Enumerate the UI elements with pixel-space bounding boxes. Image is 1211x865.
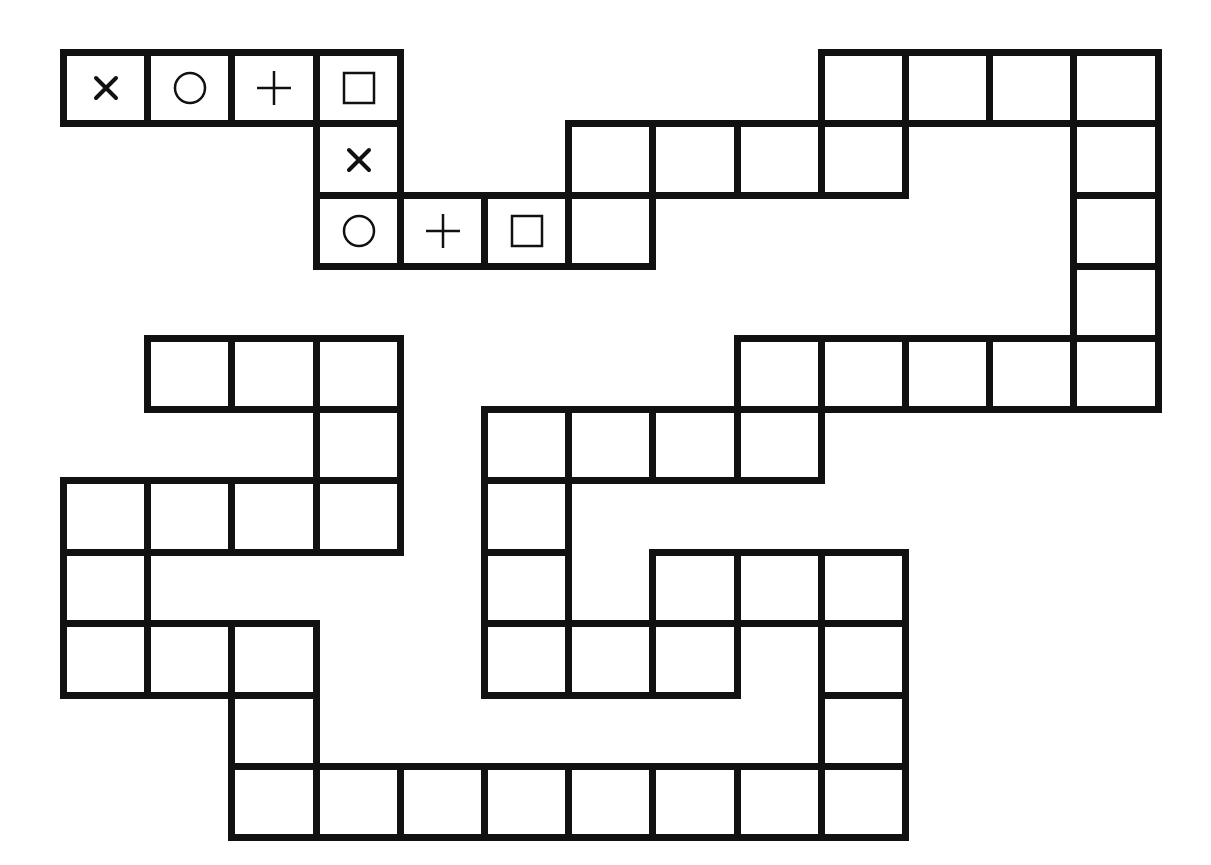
board-cell[interactable] <box>734 406 825 484</box>
board-cell[interactable] <box>649 763 741 841</box>
board-cell[interactable] <box>734 335 825 413</box>
board-cell[interactable] <box>818 549 909 627</box>
board-cell[interactable] <box>313 477 404 556</box>
board-cell[interactable] <box>60 620 151 699</box>
board-cell[interactable] <box>734 120 825 199</box>
board-cell[interactable] <box>228 620 320 699</box>
board-cell[interactable] <box>397 192 488 270</box>
board-cell[interactable] <box>228 477 320 556</box>
board-cell[interactable] <box>565 120 656 199</box>
board-cell[interactable] <box>60 49 151 127</box>
board-cell[interactable] <box>481 763 572 841</box>
board-cell[interactable] <box>902 335 993 413</box>
board-cell[interactable] <box>313 406 404 484</box>
board-cell[interactable] <box>649 120 741 199</box>
board-cell[interactable] <box>313 49 404 127</box>
board-cell[interactable] <box>1070 49 1162 127</box>
board-cell[interactable] <box>818 120 909 199</box>
board-cell[interactable] <box>228 49 320 127</box>
board-cell[interactable] <box>228 335 320 413</box>
board-cell[interactable] <box>60 477 151 556</box>
board-cell[interactable] <box>565 763 656 841</box>
board-cell[interactable] <box>734 549 825 627</box>
board-cell[interactable] <box>818 620 909 699</box>
board-cell[interactable] <box>565 192 656 270</box>
board-cell[interactable] <box>313 192 404 270</box>
board-cell[interactable] <box>818 692 909 770</box>
game-board <box>0 0 1211 865</box>
board-cell[interactable] <box>144 49 235 127</box>
board-cell[interactable] <box>649 620 741 699</box>
board-cell[interactable] <box>144 620 235 699</box>
board-cell[interactable] <box>649 406 741 484</box>
board-cell[interactable] <box>313 335 404 413</box>
board-cell[interactable] <box>986 335 1077 413</box>
board-cell[interactable] <box>818 335 909 413</box>
board-cell[interactable] <box>313 763 404 841</box>
board-cell[interactable] <box>986 49 1077 127</box>
board-cell[interactable] <box>902 49 993 127</box>
board-cell[interactable] <box>481 406 572 484</box>
board-cell[interactable] <box>565 620 656 699</box>
board-cell[interactable] <box>1070 120 1162 199</box>
board-cell[interactable] <box>481 620 572 699</box>
board-cell[interactable] <box>397 763 488 841</box>
board-cell[interactable] <box>228 763 320 841</box>
board-cell[interactable] <box>649 549 741 627</box>
board-cell[interactable] <box>1070 192 1162 270</box>
board-cell[interactable] <box>144 477 235 556</box>
board-cell[interactable] <box>481 192 572 270</box>
board-cell[interactable] <box>818 49 909 127</box>
board-cell[interactable] <box>734 763 825 841</box>
board-cell[interactable] <box>228 692 320 770</box>
board-cell[interactable] <box>60 549 151 627</box>
board-cell[interactable] <box>144 335 235 413</box>
board-cell[interactable] <box>481 549 572 627</box>
board-cell[interactable] <box>1070 263 1162 342</box>
board-cell[interactable] <box>818 763 909 841</box>
board-cell[interactable] <box>313 120 404 199</box>
board-cell[interactable] <box>1070 335 1162 413</box>
board-cell[interactable] <box>565 406 656 484</box>
board-cell[interactable] <box>481 477 572 556</box>
